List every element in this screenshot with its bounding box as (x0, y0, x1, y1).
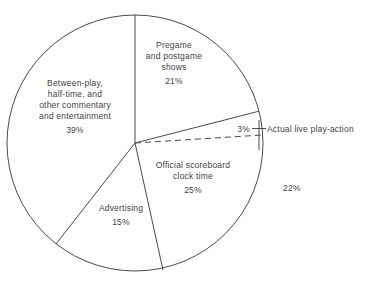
slice-divider-live-play-dashed (135, 135, 262, 143)
slice-label-live-play: Actual live play-action (267, 124, 379, 135)
slice-label-between-play-line-2: half-time, and (14, 89, 136, 100)
slice-label-pregame-line-2: and postgame (132, 51, 216, 62)
pie-chart: Pregame and postgame shows 21% Between-p… (0, 0, 385, 285)
slice-label-between-play-line-1: Between-play, (14, 78, 136, 89)
slice-label-pregame-line-1: Pregame (132, 40, 216, 51)
slice-value-live-play: 3% (226, 124, 250, 135)
slice-value-between-play: 39% (14, 125, 136, 136)
slice-divider-advertising-end (56, 143, 135, 244)
slice-label-scoreboard: Official scoreboard clock time 25% (137, 160, 249, 196)
slice-label-between-play: Between-play, half-time, and other comme… (14, 78, 136, 135)
annotation-orphan-value: 22% (283, 183, 317, 194)
slice-label-pregame: Pregame and postgame shows 21% (132, 40, 216, 87)
slice-label-advertising: Advertising 15% (75, 203, 167, 228)
slice-label-advertising-line-1: Advertising (75, 203, 167, 214)
slice-label-scoreboard-line-1: Official scoreboard (137, 160, 249, 171)
slice-label-pregame-line-3: shows (132, 62, 216, 73)
slice-label-between-play-line-4: and entertainment (14, 111, 136, 122)
slice-value-pregame: 21% (132, 76, 216, 87)
slice-label-between-play-line-3: other commentary (14, 100, 136, 111)
slice-label-scoreboard-line-2: clock time (137, 171, 249, 182)
slice-value-advertising: 15% (75, 217, 167, 228)
slice-value-scoreboard: 25% (137, 185, 249, 196)
